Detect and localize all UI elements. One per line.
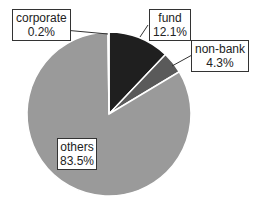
- label-corporate-pct: 0.2%: [16, 25, 67, 39]
- label-corporate-name: corporate: [16, 11, 67, 25]
- label-corporate: corporate 0.2%: [12, 9, 71, 41]
- leader-line: [172, 55, 192, 66]
- label-nonbank-name: non-bank: [195, 42, 245, 56]
- label-others: others 83.5%: [57, 138, 97, 170]
- label-fund-pct: 12.1%: [153, 25, 187, 39]
- label-fund: fund 12.1%: [149, 9, 191, 41]
- label-nonbank-pct: 4.3%: [195, 56, 245, 70]
- label-fund-name: fund: [153, 11, 187, 25]
- label-others-pct: 83.5%: [60, 154, 94, 168]
- label-others-name: others: [60, 140, 94, 154]
- pie-slice-corporate: [108, 32, 109, 114]
- label-nonbank: non-bank 4.3%: [191, 40, 249, 72]
- leader-line: [140, 25, 148, 37]
